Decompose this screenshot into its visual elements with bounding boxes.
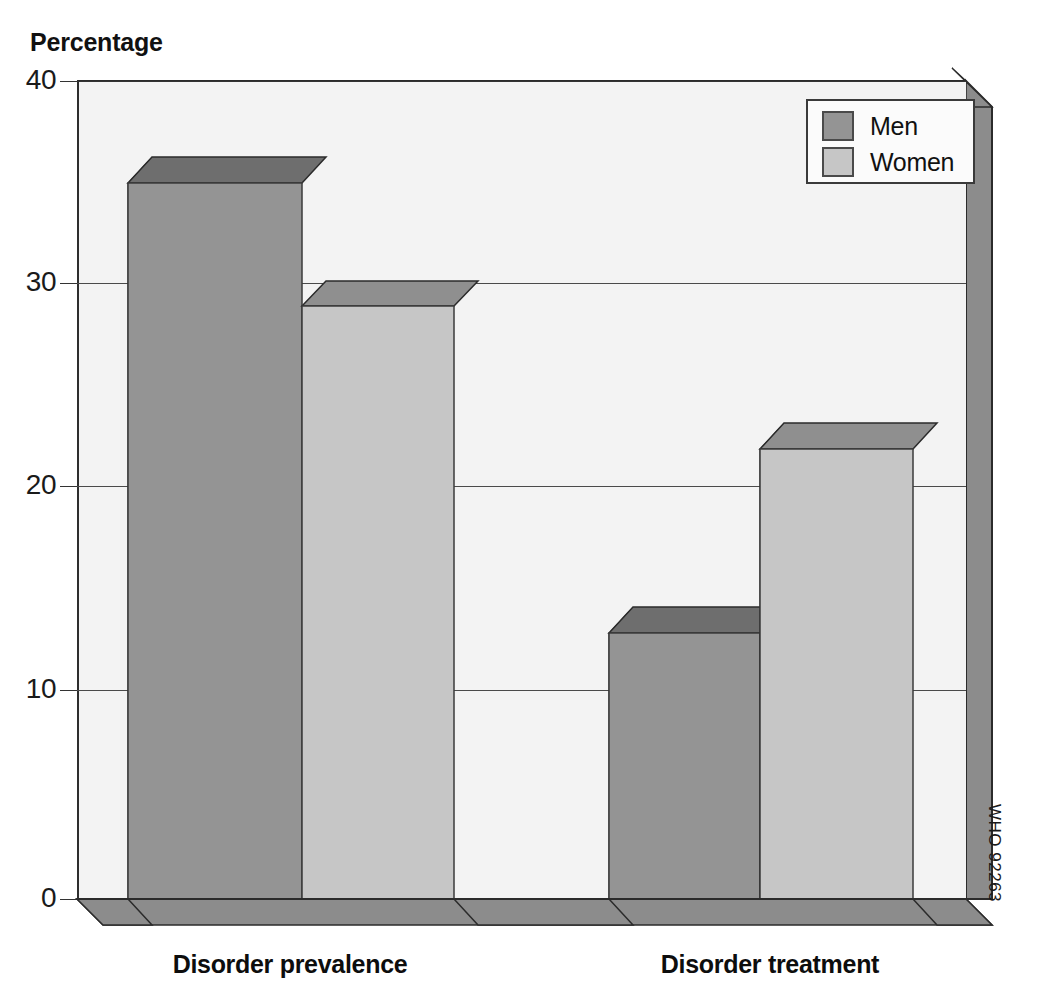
category-label-disorder-prevalence: Disorder prevalence (130, 950, 450, 979)
category-label-disorder-treatment: Disorder treatment (610, 950, 930, 979)
legend-label-women: Women (870, 148, 954, 177)
legend-swatch-women-icon (822, 147, 854, 177)
legend-swatch-men-icon (822, 111, 854, 141)
legend-item-men[interactable]: Men (822, 109, 918, 143)
chart-canvas: Percentage 40 30 (0, 0, 1052, 1004)
who-credit: WHO 92263 (984, 804, 1004, 902)
legend-item-women[interactable]: Women (822, 145, 954, 179)
chart-legend: Men Women (806, 99, 975, 184)
legend-label-men: Men (870, 112, 918, 141)
